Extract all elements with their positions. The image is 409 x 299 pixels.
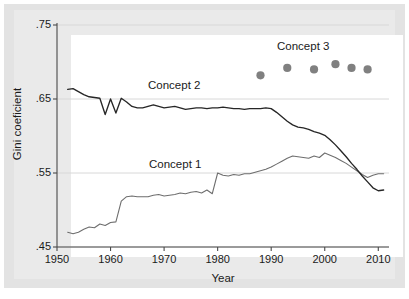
series-label-concept-3: Concept 3 [277,40,329,52]
y-axis-title: Gini coeficient [11,69,23,179]
series-label-concept-1: Concept 1 [149,158,201,170]
scatter-marker-concept-3 [363,65,371,73]
scatter-marker-concept-3 [347,64,355,72]
x-tick-label: 1950 [32,253,82,265]
series-paths [68,89,384,234]
x-tick-label: 2000 [300,253,350,265]
y-tick-label: .75 [21,18,51,30]
x-tick-label: 2010 [353,253,403,265]
series-label-concept-2: Concept 2 [148,79,200,91]
axes-lines [57,23,389,247]
scatter-marker-concept-3 [331,60,339,68]
x-axis-title: Year [57,272,389,284]
chart-page: .45.55.65.75 195019601970198019902000201… [0,0,409,299]
scatter-marker-concept-3 [310,65,318,73]
x-tick-label: 1970 [139,253,189,265]
y-tick-label: .55 [21,166,51,178]
x-tick-label: 1990 [246,253,296,265]
series-markers [256,60,371,79]
series-path-concept-1 [68,153,384,234]
y-tick-label: .45 [21,240,51,252]
gridlines [57,25,389,247]
scatter-marker-concept-3 [256,71,264,79]
y-tick-label: .65 [21,92,51,104]
x-tick-label: 1960 [86,253,136,265]
scatter-marker-concept-3 [283,64,291,72]
x-tick-label: 1980 [193,253,243,265]
tick-marks [53,25,378,251]
